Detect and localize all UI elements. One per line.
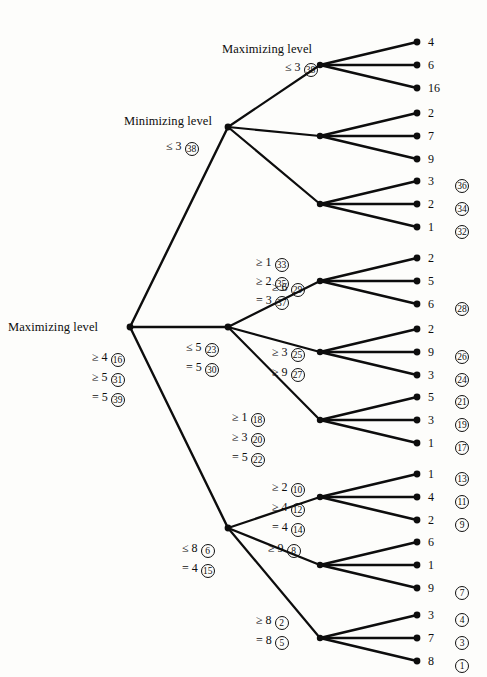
bound-relation: ≤ 3 — [166, 139, 182, 153]
node-max-3 — [317, 278, 323, 284]
bound-annotation: = 414 — [272, 520, 305, 537]
bound-annotation: ≥ 412 — [272, 500, 305, 517]
order-number: 28 — [455, 302, 469, 316]
order-number: 17 — [455, 441, 469, 455]
node-leaf-21 — [414, 539, 421, 546]
tree-edges-and-nodes — [0, 0, 487, 677]
visit-order-badge: 2 — [275, 616, 289, 630]
bound-annotation: ≥ 325 — [272, 345, 305, 362]
leaf-value: 1 — [428, 437, 434, 449]
bound-annotation: ≥ 133 — [256, 255, 289, 272]
bound-relation: = 4 — [182, 561, 198, 575]
game-tree-figure: Maximizing level Minimizing level Maximi… — [0, 0, 487, 677]
visit-order-badge: 38 — [304, 63, 318, 77]
bound-relation: ≥ 9 — [268, 541, 284, 555]
node-leaf-20 — [414, 517, 421, 524]
visit-order-badge: 18 — [251, 413, 265, 427]
bound-annotation: = 530 — [186, 360, 219, 377]
order-number: 4 — [455, 613, 469, 627]
node-max-0 — [317, 62, 323, 68]
visit-order-badge: 12 — [291, 503, 305, 517]
leaf-value: 5 — [428, 275, 434, 287]
node-max-4 — [317, 349, 323, 355]
visit-order-badge: 31 — [111, 373, 125, 387]
bound-relation: ≥ 5 — [92, 370, 108, 384]
bound-relation: = 8 — [256, 633, 272, 647]
bound-annotation: ≥ 118 — [232, 410, 265, 427]
order-number: 1 — [455, 659, 469, 673]
visit-order-badge: 23 — [205, 343, 219, 357]
edge-d2-8-2 — [320, 638, 417, 661]
node-leaf-16 — [414, 417, 421, 424]
node-leaf-9 — [414, 255, 421, 262]
node-leaf-7 — [414, 201, 421, 208]
visit-order-badge: 25 — [291, 348, 305, 362]
edge-d2-7-2 — [320, 565, 417, 588]
bound-annotation: ≥ 210 — [272, 480, 305, 497]
bound-annotation: ≥ 629 — [272, 280, 305, 297]
edge-d2-0-2 — [320, 65, 417, 88]
node-leaf-6 — [414, 178, 421, 185]
edge-d2-0-0 — [320, 42, 417, 65]
visit-order-badge: 8 — [287, 544, 301, 558]
edge-d2-1-0 — [320, 113, 417, 136]
leaf-order-badge: 13 — [455, 467, 469, 486]
bound-annotation: ≥ 98 — [268, 541, 301, 558]
bound-annotation: = 539 — [92, 390, 125, 407]
leaf-order-badge: 9 — [455, 513, 469, 532]
leaf-order-badge: 1 — [455, 654, 469, 673]
bound-annotation: ≤ 338 — [166, 139, 199, 156]
node-leaf-22 — [414, 562, 421, 569]
leaf-value: 1 — [428, 559, 434, 571]
edge-d2-5-2 — [320, 420, 417, 443]
node-leaf-8 — [414, 224, 421, 231]
order-number: 3 — [455, 636, 469, 650]
bound-relation: ≥ 9 — [272, 365, 288, 379]
visit-order-badge: 37 — [275, 296, 289, 310]
edge-root-0 — [130, 127, 228, 327]
leaf-value: 3 — [428, 609, 434, 621]
node-leaf-11 — [414, 301, 421, 308]
bound-relation: ≥ 1 — [232, 410, 248, 424]
visit-order-badge: 30 — [205, 363, 219, 377]
node-max-1 — [317, 133, 323, 139]
leaf-order-badge: 24 — [455, 368, 469, 387]
bound-relation: ≥ 2 — [272, 480, 288, 494]
bound-relation: ≥ 2 — [256, 274, 272, 288]
bound-relation: = 3 — [256, 293, 272, 307]
order-number: 36 — [455, 179, 469, 193]
edge-d2-3-0 — [320, 258, 417, 281]
node-leaf-4 — [414, 133, 421, 140]
node-max-5 — [317, 417, 323, 423]
node-leaf-1 — [414, 62, 421, 69]
bound-relation: = 5 — [232, 450, 248, 464]
node-leaf-15 — [414, 394, 421, 401]
bound-relation: ≤ 5 — [186, 340, 202, 354]
node-leaf-23 — [414, 585, 421, 592]
bound-annotation: ≤ 338 — [285, 60, 318, 77]
order-number: 19 — [455, 418, 469, 432]
leaf-value: 6 — [428, 298, 434, 310]
node-leaf-12 — [414, 326, 421, 333]
order-number: 7 — [455, 586, 469, 600]
bound-relation: ≥ 8 — [256, 613, 272, 627]
visit-order-badge: 14 — [291, 523, 305, 537]
order-number: 26 — [455, 350, 469, 364]
leaf-order-badge: 11 — [455, 490, 469, 509]
leaf-order-badge: 17 — [455, 436, 469, 455]
node-leaf-10 — [414, 278, 421, 285]
node-leaf-19 — [414, 494, 421, 501]
bound-annotation: ≤ 523 — [186, 340, 219, 357]
bound-relation: ≥ 4 — [272, 500, 288, 514]
bound-annotation: ≤ 86 — [182, 541, 215, 558]
visit-order-badge: 10 — [291, 483, 305, 497]
edge-d2-6-2 — [320, 497, 417, 520]
leaf-value: 3 — [428, 414, 434, 426]
edge-d2-7-0 — [320, 542, 417, 565]
leaf-order-badge: 21 — [455, 390, 469, 409]
leaf-value: 8 — [428, 655, 434, 667]
label-minimizing-level: Minimizing level — [124, 115, 212, 128]
leaf-value: 3 — [428, 369, 434, 381]
order-number: 9 — [455, 518, 469, 532]
order-number: 21 — [455, 395, 469, 409]
